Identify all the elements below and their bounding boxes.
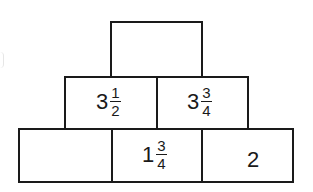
numerator: 3: [201, 85, 211, 102]
mixed-number-middle-left: 3 1 2: [96, 85, 121, 118]
denominator: 4: [202, 102, 210, 118]
cropped-edge-mark: [0, 52, 4, 68]
whole-number-bottom-right: 2: [247, 149, 259, 171]
denominator: 4: [157, 155, 165, 171]
mixed-number-middle-right: 3 3 4: [187, 85, 212, 118]
number-pyramid: 3 1 2 3 3 4 1 3 4 2: [0, 0, 313, 192]
fraction: 3 4: [156, 138, 166, 171]
whole-part: 1: [142, 144, 154, 166]
brick-top-empty: [110, 21, 203, 78]
brick-bottom-left-empty: [18, 128, 113, 183]
fraction: 3 4: [201, 85, 211, 118]
numerator: 1: [110, 85, 120, 102]
mixed-number-bottom-middle: 1 3 4: [142, 138, 167, 171]
whole-part: 3: [96, 91, 108, 113]
whole-part: 2: [247, 149, 259, 171]
fraction: 1 2: [110, 85, 120, 118]
whole-part: 3: [187, 91, 199, 113]
denominator: 2: [111, 102, 119, 118]
numerator: 3: [156, 138, 166, 155]
